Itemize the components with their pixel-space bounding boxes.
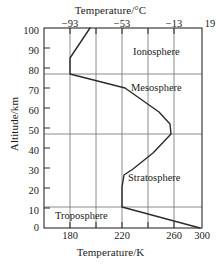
temperature-profile-curve — [70, 28, 200, 228]
plot-area — [0, 0, 221, 268]
grid-lines — [44, 28, 202, 228]
bottom-axis-title: Temperature/K — [0, 246, 221, 258]
y-axis-ticks — [44, 48, 50, 208]
bottom-tick-label-1: 220 — [102, 230, 142, 241]
bottom-tick-label-0: 180 — [50, 230, 90, 241]
layer-label-ionosphere: Ionosphere — [133, 46, 180, 57]
bottom-tick-label-3: 300 — [182, 230, 221, 241]
temperature-altitude-chart: Temperature/°C −93 −53 −13 19 Altitude/k… — [0, 0, 221, 268]
layer-label-troposphere: Troposphere — [55, 210, 108, 221]
layer-label-stratosphere: Stratosphere — [128, 172, 181, 183]
axis-frame — [44, 28, 202, 228]
layer-label-mesosphere: Mesosphere — [131, 82, 182, 93]
